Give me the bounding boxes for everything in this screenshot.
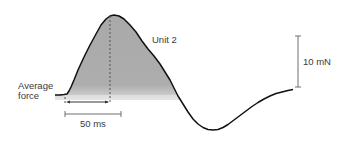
shaded-area <box>55 15 180 100</box>
force-scale-label: 10 mN <box>303 56 331 67</box>
time-scale-label: 50 ms <box>80 118 106 129</box>
twitch-force-figure: 50 ms 10 mN Unit 2 Average force <box>0 0 346 143</box>
baseline-label-line2: force <box>18 90 39 101</box>
shade-fade <box>55 95 180 101</box>
trace-label: Unit 2 <box>152 34 177 45</box>
